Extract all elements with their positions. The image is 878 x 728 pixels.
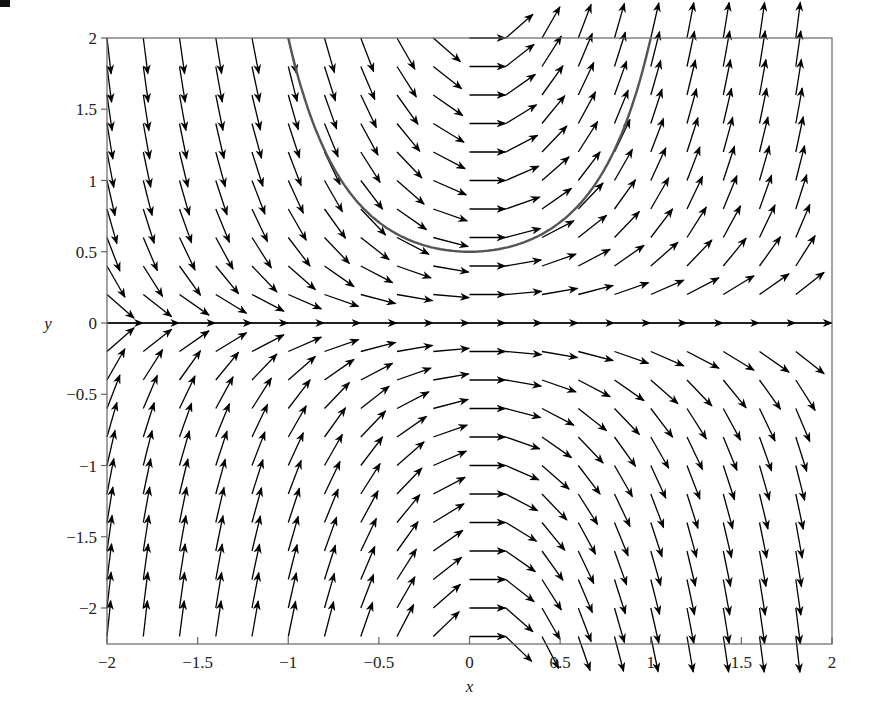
slope-arrow xyxy=(578,63,594,96)
slope-arrow xyxy=(433,38,460,62)
slope-arrow xyxy=(433,451,466,465)
slope-arrow xyxy=(687,89,697,124)
slope-arrow xyxy=(216,266,239,294)
slope-arrow xyxy=(433,152,465,169)
slope-arrow xyxy=(578,380,610,397)
y-tick-label: 0.5 xyxy=(76,243,97,262)
y-tick-label: 2 xyxy=(89,29,98,48)
slope-arrow xyxy=(615,149,633,180)
slope-arrow xyxy=(578,249,610,266)
slope-arrow xyxy=(216,238,233,270)
slope-arrow xyxy=(143,329,171,351)
slope-arrow xyxy=(651,409,673,438)
slope-arrow xyxy=(651,60,661,95)
slope-arrow xyxy=(252,354,277,380)
slope-arrow xyxy=(687,177,703,210)
slope-arrow xyxy=(651,352,684,366)
x-tick-label: 1.5 xyxy=(731,653,752,672)
direction-field-chart: −2−1.5−1−0.500.511.52 21.510.50−0.5−1−1.… xyxy=(0,0,878,728)
slope-arrow xyxy=(397,392,429,409)
slope-arrow xyxy=(723,466,734,500)
slope-arrow xyxy=(107,349,125,380)
slope-arrow xyxy=(615,580,626,614)
slope-arrow xyxy=(578,4,591,38)
slope-arrow xyxy=(542,494,567,520)
slope-arrow xyxy=(433,124,464,143)
slope-arrow xyxy=(397,368,431,380)
slope-arrow xyxy=(615,551,627,585)
slope-arrow xyxy=(615,608,625,643)
slope-arrow xyxy=(687,437,703,470)
slope-arrow xyxy=(542,188,572,209)
slope-arrow xyxy=(687,494,698,528)
slope-arrow xyxy=(325,38,335,73)
slope-arrow xyxy=(216,333,247,352)
slope-arrow xyxy=(651,178,669,209)
slope-arrow xyxy=(506,197,540,209)
slope-arrow xyxy=(361,95,377,128)
slope-arrow xyxy=(578,523,595,555)
slope-arrow xyxy=(760,117,768,152)
slope-arrow xyxy=(760,175,772,209)
slope-arrow xyxy=(252,378,271,408)
slope-arrow xyxy=(143,209,154,243)
slope-arrow xyxy=(397,266,431,278)
slope-arrow xyxy=(325,238,350,264)
slope-arrow xyxy=(506,74,536,95)
slope-arrow xyxy=(687,523,697,558)
slope-arrow xyxy=(723,3,729,39)
slope-arrow xyxy=(506,523,537,542)
slope-arrow xyxy=(615,212,640,238)
slope-arrow xyxy=(288,406,306,437)
slope-arrow xyxy=(651,280,684,294)
slope-arrow xyxy=(796,466,805,501)
slope-arrow xyxy=(433,477,465,494)
slope-arrow xyxy=(361,546,375,579)
slope-arrow xyxy=(216,352,239,380)
slope-arrow xyxy=(542,580,561,610)
slope-arrow xyxy=(687,466,700,500)
slope-arrow xyxy=(578,352,613,361)
slope-arrow xyxy=(361,38,374,72)
slope-arrow xyxy=(651,466,666,499)
slope-arrow xyxy=(397,522,418,551)
slope-arrow xyxy=(288,209,306,240)
slope-arrow xyxy=(107,295,134,319)
x-tick-label: 1 xyxy=(647,653,656,672)
slope-arrow xyxy=(433,348,469,351)
slope-arrow xyxy=(651,494,664,528)
slope-arrow xyxy=(723,494,732,529)
slope-arrow xyxy=(723,206,740,238)
slope-arrow xyxy=(687,637,693,673)
slope-arrow xyxy=(542,551,563,580)
slope-arrow xyxy=(361,464,380,494)
slope-arrow xyxy=(325,359,355,380)
slope-arrow xyxy=(397,495,420,523)
slope-arrow xyxy=(542,126,567,152)
slope-arrow xyxy=(760,551,766,586)
slope-arrow xyxy=(615,3,625,38)
slope-arrow xyxy=(288,238,310,267)
slope-arrow xyxy=(288,380,310,409)
slope-arrow xyxy=(542,66,563,95)
slope-arrow xyxy=(651,551,661,586)
slope-field-arrows xyxy=(107,2,832,672)
slope-arrow xyxy=(615,283,649,295)
slope-arrow xyxy=(107,402,117,437)
slope-arrow xyxy=(578,152,600,181)
slope-arrow xyxy=(760,637,765,673)
slope-arrow xyxy=(506,380,541,386)
y-axis-ticks: 21.510.50−0.5−1−1.5−2 xyxy=(66,29,107,618)
slope-arrow xyxy=(615,466,633,497)
slope-arrow xyxy=(506,105,537,124)
slope-arrow xyxy=(361,342,396,351)
slope-arrow xyxy=(651,118,664,152)
slope-arrow xyxy=(506,291,542,294)
slope-arrow xyxy=(615,180,636,209)
slope-arrow xyxy=(361,67,375,100)
slope-arrow xyxy=(361,519,377,552)
slope-arrow xyxy=(687,409,706,439)
slope-arrow xyxy=(760,523,767,558)
slope-arrow xyxy=(796,88,802,123)
slope-arrow xyxy=(361,411,386,437)
